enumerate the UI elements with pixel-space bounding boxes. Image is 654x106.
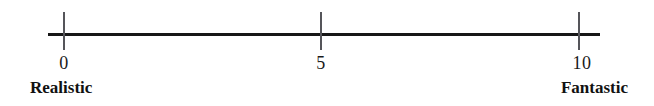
tick-mark-5 <box>320 12 322 50</box>
tick-label-10: 10 <box>573 54 592 73</box>
rating-scale-figure: 0 5 10 Realistic Fantastic <box>0 0 654 106</box>
scale-axis-line <box>48 33 600 36</box>
tick-label-0: 0 <box>59 54 69 73</box>
anchor-label-low: Realistic <box>30 78 92 98</box>
tick-mark-0 <box>63 12 65 50</box>
anchor-label-high: Fantastic <box>561 78 628 98</box>
tick-mark-10 <box>578 12 580 50</box>
tick-label-5: 5 <box>316 54 326 73</box>
